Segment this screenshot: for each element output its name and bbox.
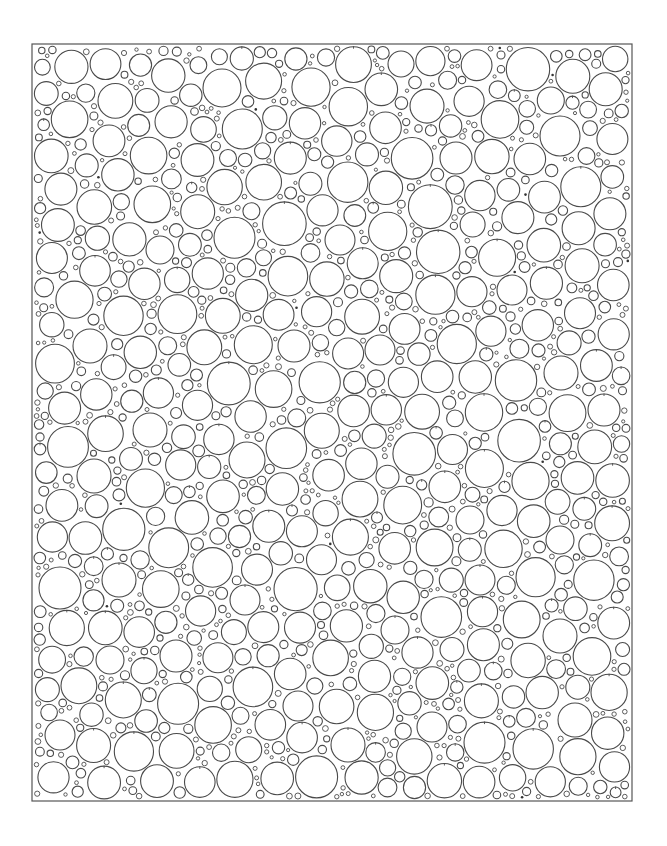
circle-shape (59, 552, 67, 560)
circle-shape (368, 544, 373, 549)
circle-shape (333, 496, 336, 499)
circle-shape (379, 533, 411, 565)
circle-shape (483, 301, 497, 315)
circle-shape (619, 387, 627, 395)
circle-shape (330, 610, 362, 642)
circle-shape (74, 265, 79, 270)
circle-shape (460, 599, 468, 607)
circle-shape (555, 299, 562, 306)
circle-shape (490, 292, 494, 296)
circle-shape (555, 317, 563, 325)
circle-shape (404, 129, 408, 133)
circle-shape (288, 754, 299, 765)
circle-shape (438, 435, 468, 465)
circle-shape (149, 528, 189, 568)
circle-shape (477, 503, 480, 506)
circle-shape (230, 334, 234, 338)
circle-shape (165, 487, 182, 504)
circle-shape (595, 51, 602, 58)
circle-shape (624, 90, 628, 94)
circle-shape (222, 109, 262, 149)
circle-shape (364, 198, 369, 203)
circle-shape (573, 638, 611, 676)
circle-shape (135, 601, 145, 611)
circle-shape (329, 88, 367, 126)
circle-shape (166, 482, 170, 486)
circle-shape (75, 154, 98, 177)
circle-shape (497, 576, 515, 594)
circle-shape (76, 768, 86, 778)
circle-shape (598, 269, 630, 301)
circle-shape (465, 487, 480, 502)
circle-shape (381, 389, 385, 393)
circle-shape (622, 408, 627, 413)
circle-shape (460, 134, 466, 140)
filled-dot (627, 260, 630, 263)
circle-shape (573, 554, 579, 560)
circle-shape (324, 575, 350, 601)
circle-shape (301, 495, 311, 505)
circle-shape (123, 787, 127, 791)
circle-shape (544, 356, 578, 390)
circle-shape (282, 407, 286, 411)
circle-shape (242, 96, 254, 108)
circle-shape (314, 138, 319, 143)
circle-shape (497, 709, 502, 714)
circle-shape (359, 553, 374, 568)
circle-shape (36, 341, 40, 345)
circle-shape (236, 728, 241, 733)
circle-shape (499, 596, 504, 601)
circle-pattern-artwork (0, 0, 667, 846)
circle-shape (522, 310, 553, 341)
circle-shape (266, 428, 307, 469)
circle-shape (393, 433, 436, 476)
circle-shape (105, 718, 111, 724)
circle-shape (113, 194, 129, 210)
circle-shape (242, 493, 245, 496)
circle-shape (276, 364, 282, 370)
circle-shape (493, 75, 496, 78)
circle-shape (35, 224, 39, 228)
circle-shape (564, 791, 570, 797)
circle-shape (36, 573, 40, 577)
circle-shape (97, 301, 101, 305)
circle-shape (128, 603, 132, 607)
circle-shape (292, 653, 296, 657)
circle-shape (200, 306, 204, 310)
circle-shape (472, 259, 476, 263)
circle-shape (527, 297, 535, 305)
circle-shape (619, 160, 624, 165)
circle-shape (333, 338, 364, 369)
circle-shape (612, 367, 630, 385)
circle-shape (38, 239, 43, 244)
circle-shape (313, 640, 349, 676)
circle-shape (196, 757, 199, 760)
circle-shape (113, 223, 146, 256)
circle-shape (590, 614, 597, 621)
circle-shape (498, 656, 504, 662)
circle-shape (73, 329, 107, 363)
circle-shape (168, 354, 191, 377)
circle-shape (173, 193, 181, 201)
circle-shape (260, 270, 267, 277)
circle-shape (188, 53, 191, 56)
circle-shape (397, 347, 405, 355)
circle-shape (74, 647, 93, 666)
circle-shape (317, 239, 321, 243)
circle-shape (318, 745, 326, 753)
circle-shape (217, 134, 221, 138)
circle-shape (344, 371, 366, 393)
circle-shape (171, 408, 182, 419)
circle-shape (237, 259, 255, 277)
circle-shape (376, 47, 389, 60)
circle-shape (126, 776, 135, 785)
circle-shape (118, 259, 123, 264)
circle-shape (332, 519, 368, 555)
circle-shape (545, 164, 557, 176)
circle-shape (113, 387, 117, 391)
circle-shape (465, 394, 502, 431)
circle-shape (81, 379, 112, 410)
circle-shape (325, 533, 330, 538)
circle-shape (388, 435, 393, 440)
circle-shape (75, 607, 79, 611)
